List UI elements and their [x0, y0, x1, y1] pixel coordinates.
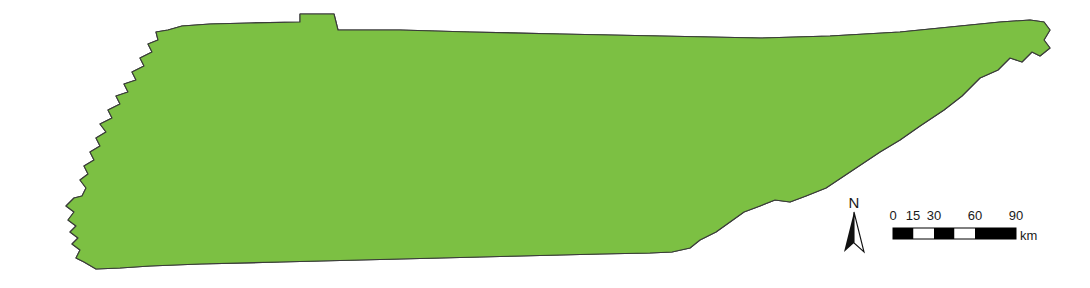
scale-tick-label: 30	[927, 208, 941, 223]
north-arrow-icon	[844, 212, 854, 252]
scale-tick-label: 90	[1009, 208, 1023, 223]
scale-tick-label: 60	[968, 208, 982, 223]
county-border	[128, 16, 130, 72]
tennessee-map-svg: N 0 15 30 60 90 km	[0, 0, 1090, 288]
scale-tick-label: 0	[889, 208, 896, 223]
scale-segment	[914, 228, 935, 239]
scale-bar: 0 15 30 60 90 km	[889, 208, 1037, 243]
scale-tick-label: 15	[906, 208, 920, 223]
scale-segment	[893, 228, 914, 239]
county-area	[60, 14, 130, 84]
scale-units-label: km	[1020, 228, 1037, 243]
scale-segment	[975, 228, 1016, 239]
scale-segment	[934, 228, 955, 239]
county-area	[56, 14, 72, 272]
north-arrow-label: N	[849, 194, 860, 211]
north-arrow-icon-right	[854, 212, 864, 252]
north-arrow: N	[844, 194, 864, 252]
scale-segment	[955, 228, 976, 239]
map-figure: N 0 15 30 60 90 km	[0, 0, 1090, 288]
